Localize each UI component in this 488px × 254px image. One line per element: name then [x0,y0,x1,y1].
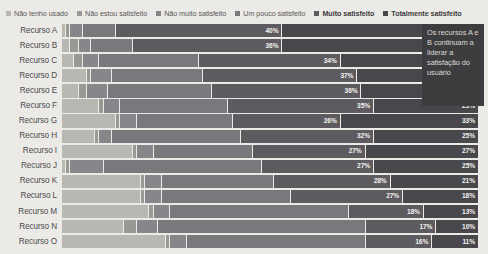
bar-segment[interactable] [83,54,100,67]
chart-row: Recurso M18%13% [0,205,488,218]
chart-row-label: Recurso D [0,71,62,81]
bar-segment[interactable] [137,220,158,233]
bar-segment[interactable]: 10% [436,220,478,233]
bar-segment[interactable] [79,39,91,52]
bar-segment-value: 27% [357,162,373,170]
bar-segment-value: 36% [266,42,282,50]
legend-item[interactable]: Não tenho usado [6,9,68,18]
bar-segment[interactable] [70,24,82,37]
bar-segment[interactable]: 35% [228,99,374,112]
bar-segment[interactable] [70,160,103,173]
bar-segment[interactable] [62,220,124,233]
legend-item-label: Totalmente satisfeito [391,9,461,18]
bar-segment[interactable] [62,99,99,112]
legend-swatch-icon [235,11,240,16]
bar-segment[interactable]: 37% [203,69,357,82]
chart-row: Recurso D37%29% [0,69,488,82]
bar-segment[interactable] [154,205,171,218]
bar-segment[interactable] [112,69,204,82]
bar-segment[interactable] [62,175,141,188]
bar-segment-value: 40% [266,27,282,35]
bar-segment[interactable]: 32% [241,130,374,143]
bar-segment[interactable] [62,145,133,158]
bar-segment[interactable] [62,39,70,52]
chart-row-label: Recurso N [0,222,62,232]
bar-segment[interactable]: 36% [212,84,362,97]
bar-segment[interactable]: 34% [199,54,340,67]
bar-segment[interactable] [79,84,87,97]
bar-segment[interactable]: 25% [374,130,478,143]
bar-segment[interactable]: 16% [366,235,433,248]
bar-segment[interactable] [187,235,366,248]
bar-segment[interactable] [108,84,212,97]
bar-segment[interactable] [104,160,262,173]
bar-segment[interactable]: 18% [403,190,478,203]
bar-segment[interactable] [145,175,162,188]
bar-segment-value: 11% [462,238,478,246]
bar-segment[interactable]: 36% [133,39,283,52]
bar-segment[interactable]: 28% [274,175,390,188]
bar-segment[interactable] [124,220,136,233]
legend-item[interactable]: Não estou satisfeito [77,9,147,18]
legend-item-label: Um pouco satisfeito [243,9,305,18]
chart-row-label: Recurso F [0,101,62,111]
bar-segment[interactable]: 17% [366,220,437,233]
bar-segment[interactable]: 27% [291,190,403,203]
bar-segment[interactable] [120,99,228,112]
legend-item[interactable]: Muito satisfeito [314,9,374,18]
bar-segment[interactable] [112,130,241,143]
bar-segment[interactable] [99,130,111,143]
legend-item[interactable]: Um pouco satisfeito [235,9,305,18]
legend-item-label: Não tenho usado [14,9,68,18]
bar-segment[interactable] [158,220,366,233]
bar-segment[interactable] [83,24,116,37]
bar-segment[interactable] [74,54,82,67]
bar-segment[interactable] [62,54,74,67]
bar-segment[interactable] [137,114,233,127]
bar-segment-value: 34% [324,57,340,65]
bar-segment[interactable] [87,84,108,97]
chart-row: Recurso H32%25% [0,130,488,143]
stacked-bar: 36%28% [62,84,478,97]
bar-segment[interactable] [62,69,87,82]
chart-row-label: Recurso H [0,131,62,141]
bar-segment[interactable] [62,205,149,218]
legend-item[interactable]: Não muito satisfeito [156,9,226,18]
legend-swatch-icon [77,11,82,16]
bar-segment[interactable] [170,235,187,248]
bar-segment[interactable]: 21% [391,175,478,188]
bar-segment[interactable] [62,114,116,127]
bar-segment[interactable] [70,39,78,52]
bar-segment[interactable] [62,190,141,203]
bar-segment[interactable] [170,205,349,218]
bar-segment[interactable] [162,175,274,188]
bar-segment[interactable] [137,145,154,158]
bar-segment[interactable] [91,39,133,52]
chart-plot-area: Recurso A40%47%Recurso B36%47%Recurso C3… [0,24,488,252]
bar-segment[interactable]: 13% [424,205,478,218]
bar-segment[interactable] [99,54,199,67]
bar-segment[interactable] [162,190,291,203]
bar-segment[interactable] [62,84,79,97]
bar-segment[interactable] [91,69,112,82]
bar-segment[interactable] [62,130,95,143]
chart-row: Recurso A40%47% [0,24,488,37]
bar-segment[interactable] [104,99,121,112]
bar-segment[interactable] [120,114,137,127]
bar-segment[interactable]: 27% [366,145,478,158]
bar-segment[interactable] [145,190,162,203]
bar-segment[interactable] [154,145,254,158]
bar-segment[interactable]: 33% [341,114,478,127]
bar-segment[interactable]: 18% [349,205,424,218]
bar-segment[interactable]: 26% [233,114,341,127]
bar-segment-value: 17% [419,223,435,231]
bar-segment[interactable] [62,235,166,248]
bar-segment[interactable]: 11% [432,235,478,248]
legend-item[interactable]: Totalmente satisfeito [383,9,461,18]
chart-row: Recurso N17%10% [0,220,488,233]
bar-segment[interactable]: 25% [374,160,478,173]
bar-segment[interactable]: 40% [116,24,282,37]
bar-segment[interactable]: 27% [253,145,365,158]
bar-segment-value: 37% [340,72,356,80]
bar-segment[interactable]: 27% [262,160,374,173]
